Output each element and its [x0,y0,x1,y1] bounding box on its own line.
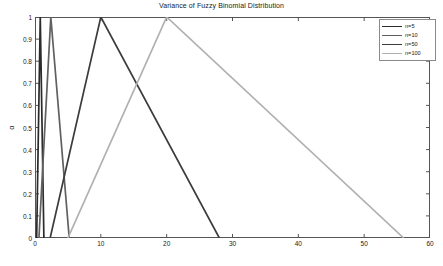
legend-item[interactable]: n=50 [382,40,433,49]
legend[interactable]: n=5 n=10 n=50 n=100 [379,19,436,61]
x-tick-label: 20 [163,240,170,247]
x-tick-label: 10 [97,240,104,247]
legend-item-label: n=10 [405,33,418,39]
y-tick-label: 0.9 [23,36,32,43]
legend-swatch-icon [382,53,402,54]
legend-swatch-icon [382,35,402,36]
axes-frame [36,18,430,238]
legend-item-label: n=5 [405,24,415,30]
figure-canvas: Variance of Fuzzy Binomial Distribution … [0,0,443,266]
y-tick-label: 0.7 [23,80,32,87]
x-tick-label: 40 [295,240,302,247]
y-axis-label: α [6,17,16,238]
x-tick-label: 50 [361,240,368,247]
x-tick-label: 60 [426,240,433,247]
y-axis-label-text: α [7,125,16,129]
plot-area: 00.10.20.30.40.50.60.70.80.91 0102030405… [35,17,430,238]
y-tick-label: 0.1 [23,212,32,219]
y-tick-label: 0.4 [23,146,32,153]
y-tick-label: 0.8 [23,58,32,65]
tick-marks [35,17,430,238]
y-tick-label: 0.3 [23,168,32,175]
plot-lines [35,17,430,238]
legend-swatch-icon [382,44,402,45]
y-tick-label: 1 [28,14,32,21]
legend-item[interactable]: n=10 [382,31,433,40]
series-line [50,17,219,238]
legend-item-label: n=50 [405,42,418,48]
y-tick-label: 0.6 [23,102,32,109]
legend-item-label: n=100 [405,51,421,57]
x-tick-label: 30 [229,240,236,247]
y-tick-label: 0 [28,235,32,242]
chart-title: Variance of Fuzzy Binomial Distribution [0,2,443,9]
legend-item[interactable]: n=5 [382,22,433,31]
y-tick-label: 0.2 [23,190,32,197]
series-group [37,17,404,238]
legend-swatch-icon [382,26,402,27]
legend-item[interactable]: n=100 [382,49,433,58]
y-tick-label: 0.5 [23,124,32,131]
x-tick-label: 0 [33,240,37,247]
